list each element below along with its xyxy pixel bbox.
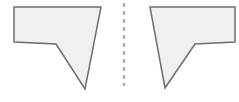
reflection-diagram — [0, 0, 239, 102]
original-shape — [14, 7, 101, 89]
reflected-shape — [150, 7, 235, 88]
diagram-canvas — [0, 0, 239, 102]
